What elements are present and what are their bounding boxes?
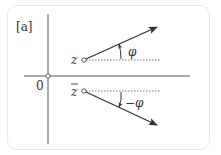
phi-angle-arc <box>119 44 121 59</box>
neg-phi-label: −φ <box>125 96 144 110</box>
panel-label: [a] <box>16 20 33 34</box>
complex-plane-diagram: [a] 0 z z φ −φ <box>0 0 221 155</box>
z-point <box>82 58 86 62</box>
neg-phi-angle-arc <box>119 92 121 107</box>
zbar-point <box>82 89 86 93</box>
z-label: z <box>70 53 78 67</box>
zbar-label: z <box>70 85 78 99</box>
phi-label: φ <box>128 45 137 59</box>
origin-point <box>46 74 50 78</box>
z-vector-arrow <box>86 27 157 59</box>
origin-label: 0 <box>36 79 44 93</box>
